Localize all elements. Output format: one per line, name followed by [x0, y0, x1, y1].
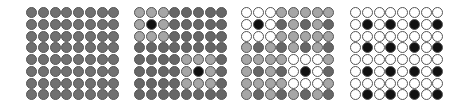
gray-circle-icon [50, 54, 61, 65]
gray-circle-icon [85, 89, 96, 100]
black-circle-icon [146, 19, 157, 30]
white-circle-icon [312, 78, 323, 89]
dark-gray-circle-icon [205, 42, 216, 53]
gray-circle-icon [38, 66, 49, 77]
dark-gray-circle-icon [323, 19, 334, 30]
dark-gray-circle-icon [146, 54, 157, 65]
light-gray-circle-icon [312, 31, 323, 42]
gray-circle-icon [73, 19, 84, 30]
dark-gray-circle-icon [193, 31, 204, 42]
black-circle-icon [432, 19, 443, 30]
gray-circle-icon [108, 78, 119, 89]
white-circle-icon [397, 7, 408, 18]
light-gray-circle-icon [265, 89, 276, 100]
dark-gray-circle-icon [276, 19, 287, 30]
white-circle-icon [397, 31, 408, 42]
dark-gray-circle-icon [169, 31, 180, 42]
gray-circle-icon [38, 19, 49, 30]
white-circle-icon [374, 54, 385, 65]
light-gray-circle-icon [241, 54, 252, 65]
gray-circle-icon [50, 78, 61, 89]
gray-circle-icon [108, 31, 119, 42]
gray-circle-icon [38, 31, 49, 42]
dark-gray-circle-icon [253, 66, 264, 77]
white-circle-icon [300, 54, 311, 65]
light-gray-circle-icon [323, 78, 334, 89]
white-circle-icon [421, 31, 432, 42]
black-circle-icon [362, 42, 373, 53]
dark-gray-circle-icon [169, 54, 180, 65]
light-gray-circle-icon [288, 89, 299, 100]
white-circle-icon [362, 54, 373, 65]
gray-circle-icon [50, 31, 61, 42]
white-circle-icon [374, 31, 385, 42]
white-circle-icon [350, 7, 361, 18]
white-circle-icon [241, 7, 252, 18]
gray-circle-icon [26, 54, 37, 65]
panel-uniform-gray [26, 7, 120, 101]
white-circle-icon [350, 54, 361, 65]
dark-gray-circle-icon [193, 89, 204, 100]
gray-circle-icon [97, 7, 108, 18]
white-circle-icon [241, 31, 252, 42]
gray-circle-icon [85, 31, 96, 42]
light-gray-circle-icon [181, 66, 192, 77]
white-circle-icon [350, 42, 361, 53]
light-gray-circle-icon [276, 31, 287, 42]
gray-circle-icon [73, 78, 84, 89]
black-circle-icon [385, 89, 396, 100]
white-circle-icon [397, 66, 408, 77]
gray-circle-icon [61, 54, 72, 65]
gray-circle-icon [73, 66, 84, 77]
light-gray-circle-icon [276, 54, 287, 65]
light-gray-circle-icon [300, 7, 311, 18]
dark-gray-circle-icon [134, 42, 145, 53]
gray-circle-icon [61, 42, 72, 53]
gray-circle-icon [108, 42, 119, 53]
dark-gray-circle-icon [158, 89, 169, 100]
dark-gray-circle-icon [216, 31, 227, 42]
light-gray-circle-icon [288, 31, 299, 42]
black-circle-icon [253, 19, 264, 30]
dark-gray-circle-icon [158, 54, 169, 65]
light-gray-circle-icon [205, 78, 216, 89]
gray-circle-icon [108, 7, 119, 18]
white-circle-icon [288, 54, 299, 65]
light-gray-circle-icon [146, 7, 157, 18]
gray-circle-icon [61, 78, 72, 89]
white-circle-icon [350, 31, 361, 42]
white-circle-icon [265, 19, 276, 30]
gray-circle-icon [26, 89, 37, 100]
white-circle-icon [409, 78, 420, 89]
dark-gray-circle-icon [181, 89, 192, 100]
white-circle-icon [374, 19, 385, 30]
gray-circle-icon [26, 7, 37, 18]
dark-gray-circle-icon [323, 89, 334, 100]
dark-gray-circle-icon [169, 42, 180, 53]
gray-circle-icon [97, 19, 108, 30]
gray-circle-icon [97, 31, 108, 42]
gray-circle-icon [38, 54, 49, 65]
gray-circle-icon [85, 54, 96, 65]
white-circle-icon [374, 78, 385, 89]
light-gray-circle-icon [323, 54, 334, 65]
dark-gray-circle-icon [216, 42, 227, 53]
dark-gray-circle-icon [134, 54, 145, 65]
dark-gray-circle-icon [300, 89, 311, 100]
white-circle-icon [350, 78, 361, 89]
dark-gray-circle-icon [146, 42, 157, 53]
dark-gray-circle-icon [276, 66, 287, 77]
white-circle-icon [421, 89, 432, 100]
dark-gray-circle-icon [158, 42, 169, 53]
light-gray-circle-icon [323, 31, 334, 42]
gray-circle-icon [97, 54, 108, 65]
dark-gray-circle-icon [134, 89, 145, 100]
gray-circle-icon [73, 89, 84, 100]
light-gray-circle-icon [134, 19, 145, 30]
white-circle-icon [265, 31, 276, 42]
gray-circle-icon [61, 66, 72, 77]
panel-two-neighborhoods [134, 7, 228, 101]
light-gray-circle-icon [181, 54, 192, 65]
light-gray-circle-icon [158, 19, 169, 30]
gray-circle-icon [97, 66, 108, 77]
